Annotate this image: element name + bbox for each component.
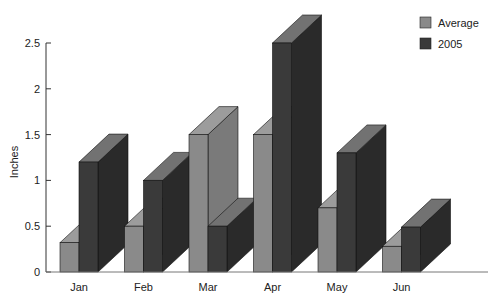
y-tick-label: 2 <box>34 83 40 95</box>
rainfall-bar-chart: 00.511.522.5 JanFebMarAprMayJun Inches A… <box>0 0 497 306</box>
x-axis: JanFebMarAprMayJun <box>46 272 488 293</box>
x-category-label: Mar <box>199 281 218 293</box>
x-category-label: Jan <box>70 281 88 293</box>
x-category-label: Jun <box>393 281 411 293</box>
bar-group-apr <box>254 15 322 272</box>
y-tick-label: 0 <box>34 266 40 278</box>
y-axis: 00.511.522.5 <box>25 37 51 278</box>
bar-group-jun <box>383 199 451 272</box>
bar-2005-may <box>337 125 386 272</box>
y-tick-label: 2.5 <box>25 37 40 49</box>
y-tick-label: 1 <box>34 174 40 186</box>
legend-label-2005: 2005 <box>438 38 462 50</box>
legend: Average 2005 <box>420 17 479 50</box>
x-category-label: Apr <box>264 281 281 293</box>
bar-group-jan <box>60 134 128 272</box>
bar-group-mar <box>189 107 257 272</box>
bar-2005-feb <box>144 152 193 272</box>
bar-group-feb <box>125 152 193 272</box>
bar-2005-jan <box>79 134 128 272</box>
y-tick-label: 1.5 <box>25 129 40 141</box>
x-category-label: Feb <box>134 281 153 293</box>
bar-group-may <box>318 125 386 272</box>
bar-2005-apr <box>273 15 322 272</box>
y-axis-label: Inches <box>8 145 20 178</box>
legend-swatch-average <box>420 17 431 28</box>
bar-2005-jun <box>402 199 451 272</box>
x-category-label: May <box>327 281 348 293</box>
legend-swatch-2005 <box>420 38 431 49</box>
y-tick-label: 0.5 <box>25 220 40 232</box>
bars <box>60 15 451 272</box>
legend-label-average: Average <box>438 17 479 29</box>
